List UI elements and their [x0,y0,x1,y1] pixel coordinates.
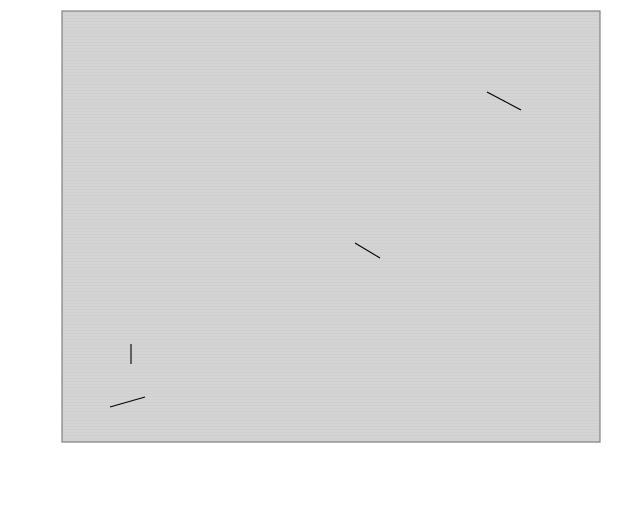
plot-background [62,11,600,442]
x-axis-tick-labels [0,455,619,475]
gdp-gap-figure [0,0,619,517]
chart-plot-area [0,0,619,517]
